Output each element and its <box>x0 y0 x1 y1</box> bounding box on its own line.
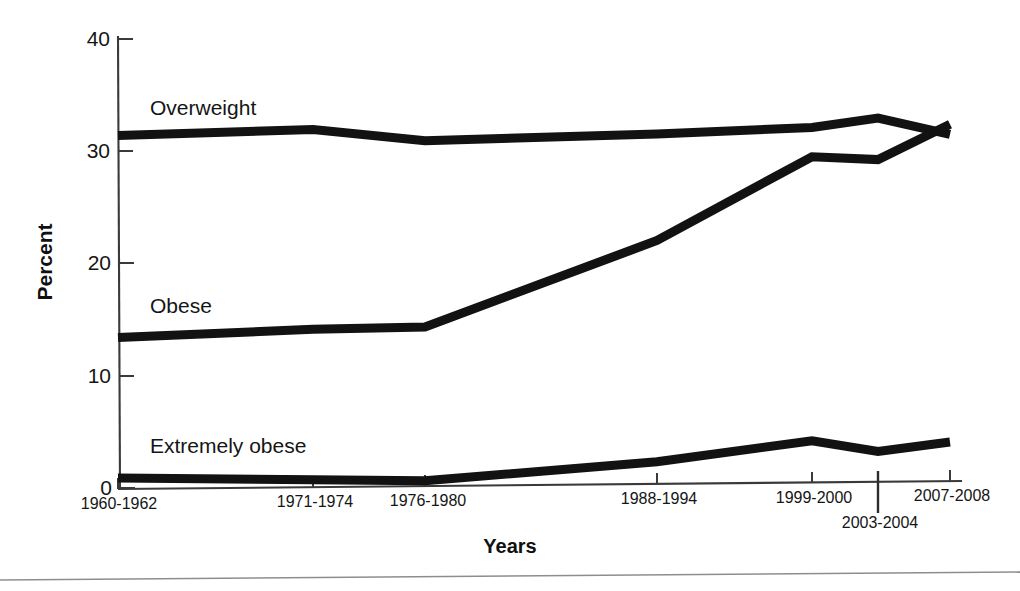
y-tick-label-10: 10 <box>88 364 111 387</box>
y-tick-label-30: 30 <box>87 139 110 162</box>
y-tick-label-20: 20 <box>88 251 111 274</box>
x-tick-label-2003-2004: 2003-2004 <box>842 514 919 531</box>
series-group <box>118 118 950 481</box>
x-tick-label-1971-1974: 1971-1974 <box>277 493 354 510</box>
chart-page: 40 30 20 10 0 Percent 1960-1962 <box>0 0 1020 591</box>
series-line-overweight <box>118 118 950 141</box>
x-tick-label-1960-1962: 1960-1962 <box>81 495 158 512</box>
x-tick-label-1976-1980: 1976-1980 <box>390 492 467 509</box>
page-bottom-rule <box>0 572 1020 580</box>
line-chart-figure: 40 30 20 10 0 Percent 1960-1962 <box>0 0 1020 591</box>
x-tick-label-2007-2008: 2007-2008 <box>914 487 991 504</box>
series-label-obese: Obese <box>150 294 212 317</box>
chart-canvas: 40 30 20 10 0 Percent 1960-1962 <box>0 0 1020 591</box>
y-tick-labels: 40 30 20 10 0 <box>87 27 112 499</box>
series-line-obese <box>118 124 950 337</box>
series-label-overweight: Overweight <box>150 96 256 119</box>
y-axis-title: Percent <box>33 223 56 300</box>
series-labels: Overweight Obese Extremely obese <box>150 96 306 457</box>
x-tick-labels: 1960-1962 1971-1974 1976-1980 1988-1994 … <box>81 487 991 531</box>
y-tick-label-40: 40 <box>87 27 110 50</box>
x-tick-label-1988-1994: 1988-1994 <box>621 490 698 507</box>
series-label-extremely-obese: Extremely obese <box>150 434 306 457</box>
x-tick-label-1999-2000: 1999-2000 <box>776 489 853 506</box>
x-axis-title: Years <box>483 535 536 557</box>
